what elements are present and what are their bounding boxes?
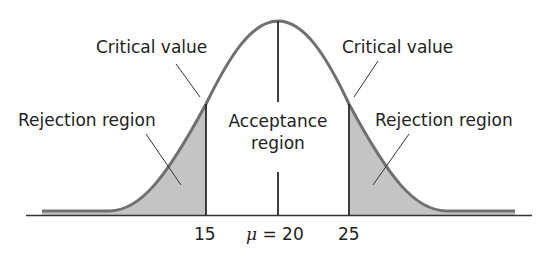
tick-label-25: 25 <box>338 224 360 244</box>
leader-critical-left <box>176 64 200 97</box>
critical-value-right-label: Critical value <box>342 38 453 57</box>
leader-critical-right <box>354 61 378 97</box>
tick-label-mean: μ = 20 <box>246 224 304 244</box>
tick-label-15: 15 <box>194 224 216 244</box>
mu-symbol: μ <box>246 224 257 244</box>
acceptance-region-label: Acceptance region <box>222 110 334 154</box>
rejection-region-right-label: Rejection region <box>375 111 513 130</box>
rejection-region-left-label: Rejection region <box>18 111 156 130</box>
acceptance-line1: Acceptance <box>222 110 334 132</box>
mean-value: = 20 <box>257 224 304 244</box>
acceptance-line2: region <box>222 132 334 154</box>
critical-value-left-label: Critical value <box>96 38 207 57</box>
